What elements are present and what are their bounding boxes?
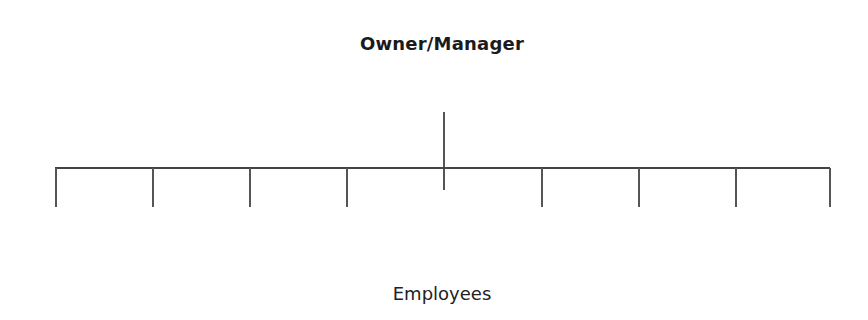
org-chart-connectors	[0, 0, 868, 320]
employees-label: Employees	[0, 283, 868, 304]
